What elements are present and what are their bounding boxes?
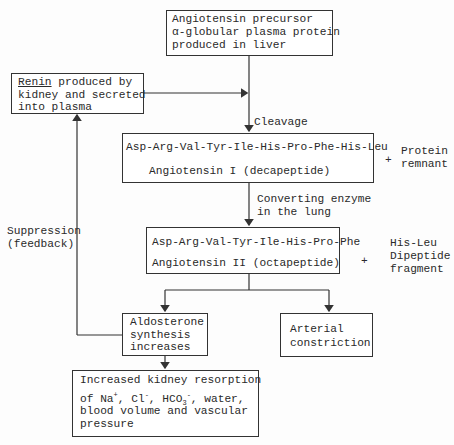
precursor-line-3: produced in liver [172, 39, 286, 51]
angiotensin-i-label: Angiotensin I (decapeptide) [149, 165, 330, 177]
converting-enzyme-line-1: Converting enzyme [257, 193, 371, 205]
his-leu-line-3: fragment [390, 263, 444, 275]
aldosterone-line-3: increases [130, 341, 190, 353]
arterial-box [280, 313, 373, 357]
angiotensin-ii-label: Angiotensin II (octapeptide) [152, 257, 340, 269]
protein-remnant-line-2: remnant [401, 158, 448, 170]
aldosterone-line-2: synthesis [130, 329, 190, 341]
renin-line-3: into plasma [18, 101, 92, 113]
angiotensin-i-sequence: Asp-Arg-Val-Tyr-Ile-His-Pro-Phe-His-Leu [126, 141, 388, 153]
renin-term: Renin [18, 76, 52, 88]
precursor-line-1: Angiotensin precursor [172, 13, 313, 25]
kidney-line-2: of Na+, Cl-, HCO3-, water, [80, 393, 245, 405]
his-leu-plus: + [361, 255, 368, 267]
aldosterone-line-1: Aldosterone [130, 316, 204, 328]
cleavage-label: Cleavage [254, 116, 308, 128]
protein-remnant-plus: + [385, 154, 392, 166]
his-leu-line-1: His-Leu [390, 237, 437, 249]
kidney-line-4: pressure [80, 418, 134, 430]
renin-line-2: kidney and secreted [18, 89, 146, 101]
converting-enzyme-line-2: in the lung [257, 206, 331, 218]
suppression-line-1: Suppression [7, 225, 81, 237]
suppression-line-2: (feedback) [7, 238, 74, 250]
protein-remnant-line-1: Protein [401, 145, 448, 157]
arterial-line-1: Arterial [290, 323, 344, 335]
his-leu-line-2: Dipeptide [390, 250, 450, 262]
kidney-line-3: blood volume and vascular [80, 405, 248, 417]
renin-line-1: Renin produced by [18, 76, 132, 88]
angiotensin-ii-sequence: Asp-Arg-Val-Tyr-Ile-His-Pro-Phe [152, 236, 360, 248]
precursor-line-2: α-globular plasma protein [172, 26, 340, 38]
kidney-line-1: Increased kidney resorption [80, 374, 261, 386]
arterial-line-2: constriction [290, 337, 371, 349]
